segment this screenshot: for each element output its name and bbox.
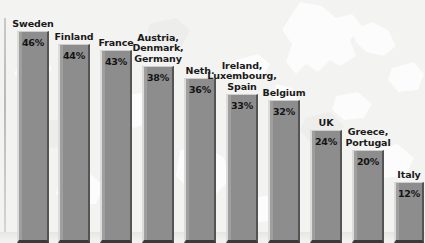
- bar-group-sweden: Sweden 46%: [17, 31, 49, 243]
- bar-rect-finland[interactable]: 44%: [58, 44, 90, 243]
- bar-group-greece-portugal: Greece, Portugal 20%: [352, 150, 384, 243]
- bar-group-netherlands: Neth. 36%: [184, 78, 216, 243]
- bar-value-greece-portugal: 20%: [354, 156, 382, 167]
- bar-rect-netherlands[interactable]: 36%: [184, 78, 216, 243]
- bar-group-finland: Finland 44%: [58, 44, 90, 243]
- bar-group-uk: UK 24%: [310, 130, 342, 243]
- bar-chart: Sweden 46% Finland 44% France 43% Austri…: [0, 0, 425, 243]
- bar-label-uk: UK: [319, 118, 334, 129]
- bar-value-austria-denmark-germany: 38%: [144, 72, 172, 83]
- bar-value-sweden: 46%: [19, 37, 47, 48]
- bar-value-italy: 12%: [396, 188, 422, 199]
- bar-rect-france[interactable]: 43%: [100, 50, 132, 243]
- bar-value-belgium: 32%: [270, 106, 298, 117]
- bar-rect-uk[interactable]: 24%: [310, 130, 342, 243]
- bar-group-ireland-luxembourg-spain: Ireland, Luxembourg, Spain 33%: [226, 94, 258, 243]
- bar-label-belgium: Belgium: [263, 88, 306, 99]
- bar-group-austria-denmark-germany: Austria, Denmark, Germany 38%: [142, 66, 174, 243]
- bar-label-italy: Italy: [397, 170, 420, 181]
- bar-rect-ireland-luxembourg-spain[interactable]: 33%: [226, 94, 258, 243]
- bar-value-netherlands: 36%: [186, 84, 214, 95]
- bar-rect-austria-denmark-germany[interactable]: 38%: [142, 66, 174, 243]
- bar-value-finland: 44%: [60, 50, 88, 61]
- bar-group-italy: Italy 12%: [394, 182, 424, 243]
- bar-group-belgium: Belgium 32%: [268, 100, 300, 243]
- bar-rect-italy[interactable]: 12%: [394, 182, 424, 243]
- bar-value-ireland-luxembourg-spain: 33%: [228, 100, 256, 111]
- bar-label-finland: Finland: [54, 32, 93, 43]
- bar-rect-belgium[interactable]: 32%: [268, 100, 300, 243]
- bar-value-france: 43%: [102, 56, 130, 67]
- bar-rect-sweden[interactable]: 46%: [17, 31, 49, 243]
- bar-label-sweden: Sweden: [12, 19, 53, 30]
- bars-container: Sweden 46% Finland 44% France 43% Austri…: [0, 0, 425, 243]
- bar-rect-greece-portugal[interactable]: 20%: [352, 150, 384, 243]
- bar-label-austria-denmark-germany: Austria, Denmark, Germany: [126, 33, 190, 65]
- bar-label-greece-portugal: Greece, Portugal: [336, 127, 400, 148]
- bar-group-france: France 43%: [100, 50, 132, 243]
- bar-value-uk: 24%: [312, 136, 340, 147]
